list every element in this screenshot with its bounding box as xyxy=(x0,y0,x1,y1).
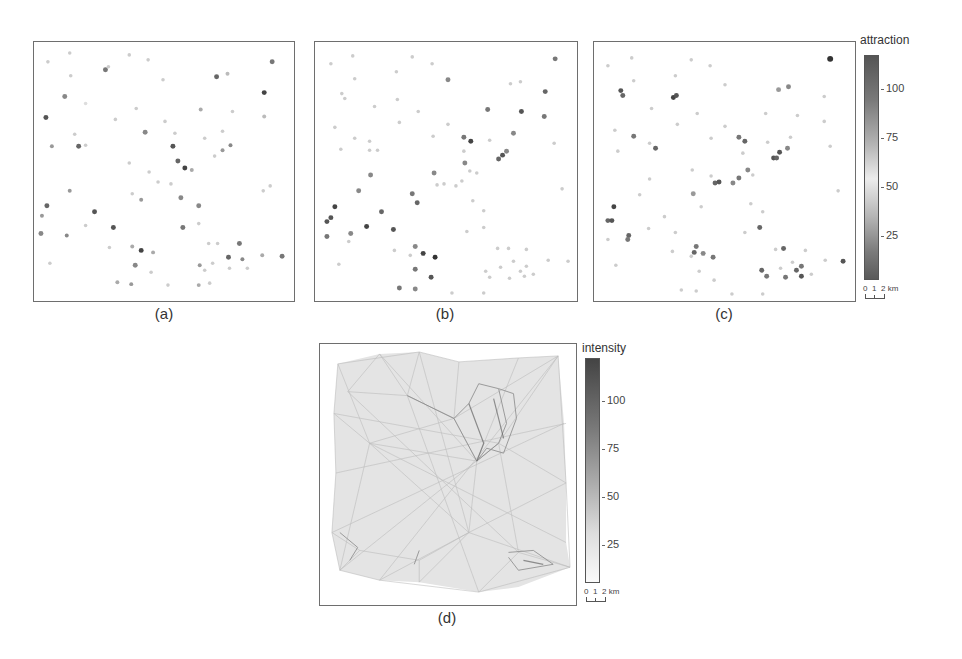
scale-mid-tick xyxy=(595,598,596,601)
intensity-tick-75: 75 xyxy=(607,442,619,454)
map-panel-a xyxy=(33,41,295,302)
attraction-legend-title: attraction xyxy=(860,33,909,47)
scale-label-1: 1 xyxy=(593,587,597,596)
panel-caption-b: (b) xyxy=(415,305,475,322)
panel-caption-d: (d) xyxy=(417,609,477,626)
flow-network-layer xyxy=(320,344,576,605)
attraction-color-ramp xyxy=(864,55,879,280)
map-panel-c xyxy=(593,41,856,302)
scale-label-0: 0 xyxy=(584,587,588,596)
attraction-tick-75: 75 xyxy=(886,131,898,143)
scale-label-0: 0 xyxy=(863,284,867,293)
points-layer-c xyxy=(594,42,855,301)
scale-line xyxy=(586,597,606,602)
intensity-tick-100: 100 xyxy=(607,394,625,406)
scale-mid-tick xyxy=(874,295,875,298)
intensity-legend-title: intensity xyxy=(582,341,626,355)
attraction-tick-50: 50 xyxy=(886,180,898,192)
points-layer-a xyxy=(34,42,294,301)
intensity-tick-25: 25 xyxy=(607,538,619,550)
panel-caption-a: (a) xyxy=(134,305,194,322)
panel-caption-c: (c) xyxy=(694,305,754,322)
scale-label-1: 1 xyxy=(872,284,876,293)
points-layer-b xyxy=(315,42,577,301)
scale-line xyxy=(865,294,885,299)
scale-label-2km: 2 km xyxy=(881,284,898,293)
scale-label-2km: 2 km xyxy=(602,587,619,596)
intensity-tick-50: 50 xyxy=(607,490,619,502)
map-panel-d xyxy=(319,343,577,606)
attraction-tick-100: 100 xyxy=(886,82,904,94)
intensity-color-ramp xyxy=(585,358,600,583)
attraction-tick-25: 25 xyxy=(886,229,898,241)
map-panel-b xyxy=(314,41,578,302)
